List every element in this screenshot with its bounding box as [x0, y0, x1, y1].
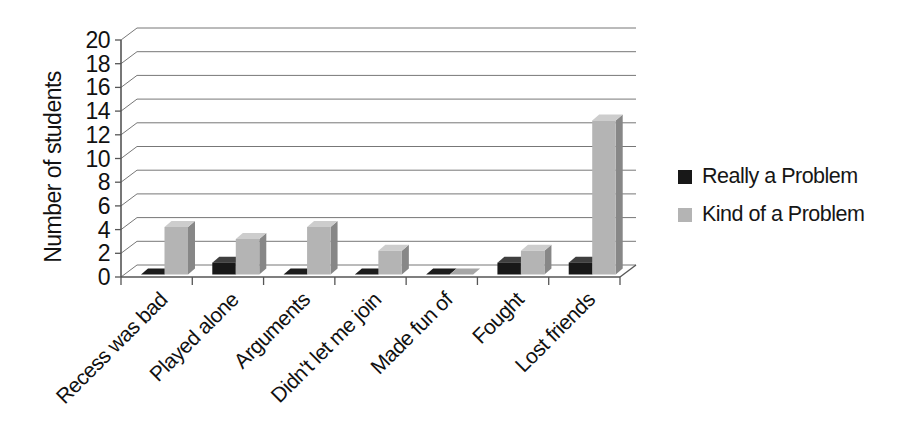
- y-tick-label: 4: [98, 217, 111, 243]
- bar-front-0: [212, 263, 236, 275]
- gridline-depth-connector: [121, 170, 137, 182]
- y-tick-label: 16: [85, 74, 110, 100]
- chart-figure: 02468101214161820Recess was badPlayed al…: [0, 0, 906, 448]
- gridline-depth-connector: [121, 75, 137, 87]
- y-tick-label: 6: [98, 193, 110, 219]
- y-tick-label: 8: [98, 169, 110, 195]
- y-tick-label: 14: [85, 98, 110, 124]
- bar-side-1: [331, 221, 338, 274]
- bar-side-1: [616, 114, 623, 274]
- bar-front-1: [378, 251, 402, 275]
- y-tick-label: 18: [85, 51, 110, 77]
- bar-front-1: [236, 239, 259, 275]
- y-axis-title: Number of students: [40, 71, 67, 263]
- legend-label-kind-of-a-problem: Kind of a Problem: [702, 202, 864, 227]
- legend-item-really-a-problem: Really a Problem: [678, 164, 864, 189]
- gridline-depth-connector: [121, 52, 137, 64]
- gridline-depth-connector: [121, 241, 137, 253]
- y-tick-label: 2: [98, 240, 110, 266]
- bar-front-0: [497, 263, 521, 275]
- bar-front-1: [165, 227, 189, 274]
- gridline-depth-connector: [121, 28, 137, 40]
- gridline-depth-connector: [121, 265, 137, 277]
- bar-front-1: [592, 120, 616, 274]
- y-tick-label: 10: [85, 146, 110, 172]
- legend-swatch-really-a-problem: [678, 170, 692, 184]
- legend-label-really-a-problem: Really a Problem: [702, 164, 858, 189]
- gridline-depth-connector: [121, 123, 137, 135]
- legend: Really a Problem Kind of a Problem: [678, 164, 864, 227]
- x-category-label: Fought: [468, 287, 529, 348]
- legend-swatch-kind-of-a-problem: [678, 208, 692, 222]
- gridline-depth-connector: [121, 218, 137, 230]
- bar-front-0: [569, 263, 593, 275]
- bar-side-1: [188, 221, 195, 274]
- x-category-label: Recess was bad: [51, 288, 171, 408]
- y-tick-label: 0: [98, 264, 110, 290]
- bar-side-1: [259, 233, 266, 275]
- gridline-depth-connector: [121, 147, 137, 159]
- gridline-depth-connector: [121, 99, 137, 111]
- y-tick-label: 20: [85, 27, 110, 53]
- legend-item-kind-of-a-problem: Kind of a Problem: [678, 202, 864, 227]
- bar-front-1: [307, 227, 331, 274]
- y-tick-label: 12: [85, 122, 110, 148]
- gridline-depth-connector: [121, 194, 137, 206]
- bar-front-1: [521, 251, 545, 275]
